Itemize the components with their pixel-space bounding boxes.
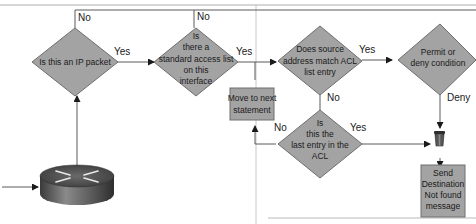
node-text: statement xyxy=(233,105,271,115)
node-text: Send xyxy=(433,168,453,178)
node-text: Is xyxy=(317,118,324,128)
process-send-destination: Send Destination Not found message xyxy=(421,165,465,217)
edge-label-deny: Deny xyxy=(447,92,470,103)
node-text: last entry in the xyxy=(291,140,349,150)
edge-label-match-yes: Yes xyxy=(359,44,375,55)
decision-permit-deny: Permit or deny condition xyxy=(398,24,476,95)
edge-label-ip-no: No xyxy=(78,12,91,23)
node-text: Is xyxy=(193,31,200,41)
node-text: standard access list xyxy=(159,54,234,64)
node-text: on this xyxy=(183,65,208,75)
edge-label-match-no: No xyxy=(327,92,340,103)
node-text: Does source xyxy=(296,44,344,54)
node-text: message xyxy=(426,201,461,211)
process-move-next: Move to next statement xyxy=(228,88,277,120)
edge-label-acl-yes: Yes xyxy=(236,46,252,57)
decision-is-ip-packet: Is this an IP packet xyxy=(32,28,118,96)
node-text: list entry xyxy=(304,67,336,77)
edge-label-acl-no: No xyxy=(197,11,210,22)
decision-source-match: Does source address match ACL list entry xyxy=(278,26,362,95)
edge-label-ip-yes: Yes xyxy=(114,46,130,57)
node-text: interface xyxy=(180,76,213,86)
node-text: ACL xyxy=(312,151,329,161)
router-icon xyxy=(40,165,114,205)
edge-label-last-yes: Yes xyxy=(350,122,366,133)
node-text: this the xyxy=(306,129,334,139)
node-text: Not found xyxy=(425,190,462,200)
node-text: Is this an IP packet xyxy=(39,57,111,67)
decision-standard-acl: Is there a standard access list on this … xyxy=(154,28,238,96)
edge-label-last-no: No xyxy=(274,122,287,133)
node-text: Permit or xyxy=(421,47,456,57)
node-text: address match ACL xyxy=(283,56,357,66)
decision-last-entry: Is this the last entry in the ACL xyxy=(278,110,362,178)
node-text: there a xyxy=(183,42,210,52)
node-text: Move to next xyxy=(228,93,277,103)
acl-flowchart: Is this an IP packet Is there a standard… xyxy=(0,0,476,224)
node-text: deny condition xyxy=(411,58,466,68)
trash-icon xyxy=(434,131,445,146)
node-text: Destination xyxy=(422,179,465,189)
